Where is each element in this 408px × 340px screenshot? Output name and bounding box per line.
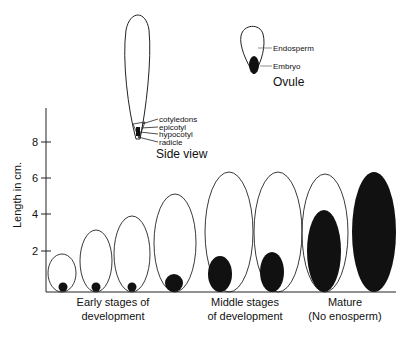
stage-middle-line1: Middle stages	[211, 296, 279, 308]
y-axis-label: Length in cm.	[11, 162, 23, 228]
side-view-embryo	[136, 127, 140, 136]
ovule-illustration: Endosperm Embryo Ovule	[241, 26, 315, 89]
stage-early-line2: development	[82, 310, 145, 322]
seed-series	[48, 172, 396, 292]
seed-1	[48, 254, 76, 292]
label-radicle: radicle	[159, 138, 183, 147]
stage-middle-line2: of development	[207, 310, 282, 322]
label-embryo: Embryo	[273, 62, 301, 71]
seed-6	[254, 172, 302, 292]
y-tick-6: 6	[32, 172, 38, 184]
y-axis: 2 4 6 8 Length in cm.	[11, 108, 51, 292]
stage-early-line1: Early stages of	[77, 296, 151, 308]
label-endosperm: Endosperm	[273, 44, 314, 53]
ovule-title: Ovule	[273, 75, 305, 89]
stage-labels: Early stages of development Middle stage…	[77, 296, 382, 322]
y-tick-2: 2	[32, 245, 38, 257]
stage-mature-line1: Mature	[328, 296, 362, 308]
seed-4	[154, 194, 196, 292]
seed-2	[80, 230, 112, 292]
side-view-illustration: cotyledons epicotyl hypocotyl radicle Si…	[125, 15, 208, 161]
y-tick-4: 4	[32, 208, 38, 220]
seed-5	[205, 172, 253, 292]
stage-mature-line2: (No enosperm)	[308, 310, 381, 322]
side-view-title: Side view	[156, 147, 208, 161]
y-tick-8: 8	[32, 136, 38, 148]
side-view-seed-outline	[125, 15, 150, 139]
seed-7	[302, 174, 348, 292]
seed-development-diagram: cotyledons epicotyl hypocotyl radicle Si…	[0, 0, 408, 340]
ovule-embryo	[249, 56, 259, 74]
seed-3	[114, 216, 150, 292]
seed-8	[352, 172, 396, 292]
